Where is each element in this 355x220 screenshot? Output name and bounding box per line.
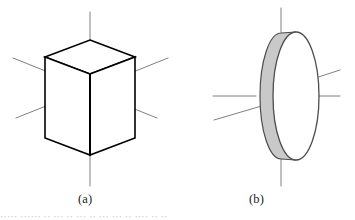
figure-container: (a) (b) ····· ······ ·· ··· ·· ··· ·· ··… [0,0,355,220]
panel-b-group [213,8,340,186]
disc-front-face [273,32,319,160]
prism-axis-upper-left [13,58,48,72]
prism-right-face [90,57,135,155]
panel-label-b: (b) [249,192,264,207]
panel-label-a: (a) [78,192,92,207]
panel-a-group [13,12,168,186]
prism-solid [45,40,135,155]
figure-caption-partial: ····· ······ ·· ··· ·· ··· ·· ··· ··· ··… [0,211,355,220]
disc-axis-oblique-lower-left [214,105,265,120]
figure-illustration [0,0,355,220]
disc-solid [260,32,319,160]
prism-axis-upper-right [133,58,168,72]
prism-left-face [45,57,90,155]
